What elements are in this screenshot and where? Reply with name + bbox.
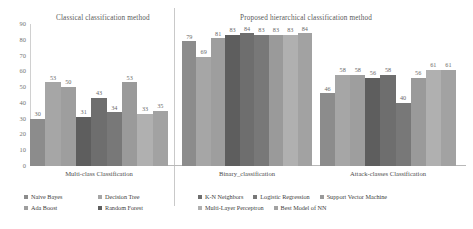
legend-item[interactable]: Random Forest	[98, 205, 172, 211]
bar	[426, 70, 441, 166]
bar-value-label: 84	[302, 26, 308, 32]
bar-value-label: 31	[81, 109, 87, 115]
bar	[122, 82, 137, 166]
legend-item[interactable]: Decision Tree	[98, 194, 172, 200]
legend-swatch-icon	[198, 206, 202, 210]
bar-value-label: 33	[142, 106, 148, 112]
bar	[76, 117, 91, 166]
bar-value-label: 58	[355, 67, 361, 73]
bar-value-label: 56	[415, 70, 421, 76]
bar-item: 83	[225, 24, 239, 166]
bar	[30, 119, 45, 166]
legend-item[interactable]: Support Vector Machine	[320, 194, 387, 200]
legend-swatch-icon	[274, 206, 278, 210]
bar-value-label: 81	[215, 31, 221, 37]
bar-group: 796981838483838384	[182, 24, 312, 166]
panel-title-classical: Classical classification method	[56, 14, 150, 22]
bar	[320, 93, 335, 166]
bar-value-label: 34	[111, 105, 117, 111]
legend-swatch-icon	[98, 195, 102, 199]
legend-classical: Naive BayesDecision TreeAda BoostRandom …	[24, 194, 174, 216]
bar-value-label: 61	[430, 62, 436, 68]
bar-value-label: 58	[340, 67, 346, 73]
legend-item[interactable]: Best Model of NN	[274, 205, 327, 211]
legend-item[interactable]: K-N Neighbors	[198, 194, 243, 200]
bar-item: 58	[380, 24, 395, 166]
bar-item: 50	[61, 24, 76, 166]
bar-value-label: 53	[50, 75, 56, 81]
bar-item: 56	[411, 24, 426, 166]
bar-item: 46	[320, 24, 335, 166]
bar	[335, 75, 350, 167]
legend-label: Naive Bayes	[31, 194, 62, 200]
bar-group: 465858565840566161	[320, 24, 456, 166]
bar	[380, 75, 395, 167]
bar-item: 58	[335, 24, 350, 166]
bar	[107, 112, 122, 166]
legend-item[interactable]: Ada Boost	[24, 205, 98, 211]
bar-item: 56	[365, 24, 380, 166]
bar-group: 305350314334533335	[30, 24, 168, 166]
bar-value-label: 83	[229, 27, 235, 33]
bar-item: 35	[153, 24, 168, 166]
bar	[153, 111, 168, 166]
bar-item: 83	[269, 24, 283, 166]
bar-value-label: 58	[385, 67, 391, 73]
bar-value-label: 43	[96, 90, 102, 96]
bar-value-label: 53	[127, 75, 133, 81]
bar	[196, 57, 210, 166]
y-tick-label: 40	[20, 100, 26, 106]
legend-item[interactable]: Naive Bayes	[24, 194, 98, 200]
bar	[350, 75, 365, 167]
bar-item: 53	[45, 24, 60, 166]
bar	[283, 35, 297, 166]
bar-value-label: 83	[273, 27, 279, 33]
bar-item: 84	[298, 24, 312, 166]
bar	[365, 78, 380, 166]
bar-value-label: 46	[324, 86, 330, 92]
legend-label: Decision Tree	[105, 194, 140, 200]
y-tick-label: 80	[20, 37, 26, 43]
bar-value-label: 56	[370, 70, 376, 76]
bar	[45, 82, 60, 166]
bar-chart-figure: Classical classification method Proposed…	[0, 0, 473, 229]
legend-proposed: K-N NeighborsLogistic RegressionSupport …	[198, 194, 470, 216]
category-label: Binary_classification	[182, 170, 312, 177]
legend-label: Random Forest	[105, 205, 143, 211]
bar-item: 79	[182, 24, 196, 166]
bar-item: 53	[122, 24, 137, 166]
bar-item: 84	[240, 24, 254, 166]
y-tick-label: 10	[20, 147, 26, 153]
bar	[441, 70, 456, 166]
legend-swatch-icon	[24, 195, 28, 199]
legend-item[interactable]: Multi-Layer Perceptron	[198, 205, 264, 211]
bar-value-label: 50	[65, 79, 71, 85]
y-tick-label: 50	[20, 84, 26, 90]
legend-label: K-N Neighbors	[205, 194, 243, 200]
bar-item: 33	[137, 24, 152, 166]
plot-area: 9080706050403020100 30535031433453333579…	[30, 24, 466, 166]
bar-value-label: 69	[201, 49, 207, 55]
y-tick-label: 0	[23, 163, 26, 169]
bar-item: 43	[91, 24, 106, 166]
bar	[91, 98, 106, 166]
bar-item: 61	[441, 24, 456, 166]
category-label: Attack-classes Classification	[320, 170, 456, 177]
legend-label: Best Model of NN	[281, 205, 327, 211]
y-tick-label: 20	[20, 131, 26, 137]
bar-item: 81	[211, 24, 225, 166]
legend-label: Multi-Layer Perceptron	[205, 205, 264, 211]
bar-value-label: 83	[258, 27, 264, 33]
bar	[298, 33, 312, 166]
legend-label: Logistic Regression	[260, 194, 309, 200]
bar	[61, 87, 76, 166]
bar-value-label: 79	[186, 34, 192, 40]
bar-value-label: 61	[445, 62, 451, 68]
bar	[211, 38, 225, 166]
bar-item: 69	[196, 24, 210, 166]
legend-label: Ada Boost	[31, 205, 57, 211]
bar-item: 40	[396, 24, 411, 166]
bar	[396, 103, 411, 166]
legend-item[interactable]: Logistic Regression	[253, 194, 309, 200]
bar-value-label: 35	[157, 103, 163, 109]
